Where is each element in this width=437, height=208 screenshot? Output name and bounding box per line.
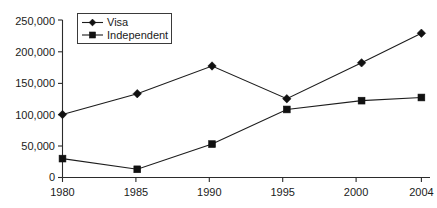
x-tick-label: 2004	[409, 186, 433, 198]
y-tick-label: 100,000	[15, 109, 55, 121]
line-chart: 0 50,000 100,000 150,000 200,000 250,000	[0, 0, 437, 208]
chart-canvas: 0 50,000 100,000 150,000 200,000 250,000	[0, 0, 437, 208]
square-icon	[90, 32, 96, 38]
x-axis-labels: 1980 1985 1990 1995 2000 2004	[50, 186, 433, 198]
legend-label-visa: Visa	[107, 16, 129, 28]
data-point-diamond	[208, 62, 216, 70]
data-point-diamond	[133, 90, 141, 98]
series-line-visa	[63, 33, 422, 114]
y-tick-label: 150,000	[15, 77, 55, 89]
data-point-diamond	[357, 59, 365, 67]
data-point-square	[59, 155, 66, 162]
x-tick-label: 1995	[270, 186, 294, 198]
chart-legend: Visa Independent	[78, 14, 172, 44]
data-point-square	[209, 141, 216, 148]
data-point-square	[358, 97, 365, 104]
data-point-diamond	[283, 95, 291, 103]
series-line-independent	[63, 97, 422, 169]
series-layer	[58, 29, 425, 173]
data-point-square	[134, 166, 141, 173]
legend-label-independent: Independent	[107, 29, 168, 41]
y-tick-label: 200,000	[15, 46, 55, 58]
data-point-square	[418, 94, 425, 101]
data-point-diamond	[58, 110, 66, 118]
data-point-square	[283, 106, 290, 113]
y-axis-ticks	[58, 20, 63, 178]
x-tick-label: 2000	[344, 186, 368, 198]
y-tick-label: 50,000	[21, 140, 55, 152]
y-axis-labels: 0 50,000 100,000 150,000 200,000 250,000	[15, 15, 55, 183]
x-tick-label: 1990	[197, 186, 221, 198]
y-tick-label: 0	[49, 171, 55, 183]
x-tick-label: 1980	[50, 186, 74, 198]
x-axis-ticks	[63, 178, 422, 183]
y-tick-label: 250,000	[15, 15, 55, 27]
data-point-diamond	[417, 29, 425, 37]
x-tick-label: 1985	[124, 186, 148, 198]
